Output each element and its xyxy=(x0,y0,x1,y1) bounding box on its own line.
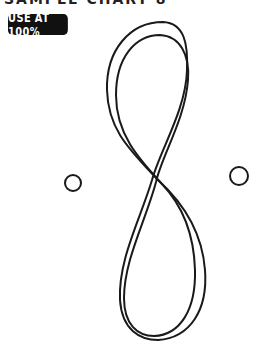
left-circle-icon xyxy=(65,175,81,191)
figure-eight-inner-stroke xyxy=(116,35,195,336)
figure-eight-drawing xyxy=(0,0,261,343)
right-circle-icon xyxy=(230,167,248,185)
